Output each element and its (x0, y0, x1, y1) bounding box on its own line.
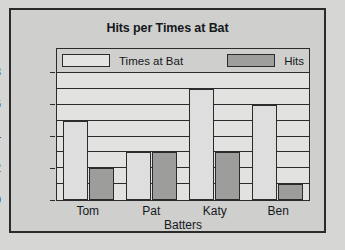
legend-swatch-times-at-bat (62, 54, 110, 67)
y-tick-mark (50, 200, 55, 201)
legend-entry-hits: Hits (227, 54, 304, 67)
chart-title: Hits per Times at Bat (11, 21, 324, 35)
y-tick-mark (50, 104, 55, 105)
y-tick-mark (50, 72, 55, 73)
plot-area: Times at Bat Hits (56, 48, 310, 201)
y-tick-label: 0 (0, 193, 1, 207)
chart-legend: Times at Bat Hits (57, 49, 309, 73)
bar-pat-times-at-bat (126, 152, 151, 200)
bar-groups (57, 73, 309, 200)
x-tick-label-katy: Katy (180, 204, 250, 218)
chart-figure: Hits per Times at Bat Times at Bat Hits … (9, 8, 326, 233)
legend-label-times-at-bat: Times at Bat (119, 55, 183, 67)
y-tick-mark (50, 168, 55, 169)
legend-entry-times-at-bat: Times at Bat (62, 54, 183, 67)
legend-label-hits: Hits (284, 55, 304, 67)
y-tick-mark (50, 136, 55, 137)
y-tick-label: 6 (0, 97, 1, 111)
bar-katy-times-at-bat (189, 89, 214, 200)
y-tick-label: 4 (0, 129, 1, 143)
bar-pat-hits (152, 152, 177, 200)
bar-katy-hits (215, 152, 240, 200)
bar-ben-times-at-bat (252, 105, 277, 200)
bar-group (120, 73, 183, 200)
bar-group (183, 73, 246, 200)
bar-group (246, 73, 309, 200)
legend-swatch-hits (227, 54, 275, 67)
bar-group (57, 73, 120, 200)
bar-tom-times-at-bat (63, 121, 88, 200)
y-tick-label: 2 (0, 161, 1, 175)
x-tick-label-tom: Tom (53, 204, 123, 218)
bar-tom-hits (89, 168, 114, 200)
plot-canvas (57, 73, 309, 200)
x-tick-label-pat: Pat (116, 204, 186, 218)
bar-ben-hits (278, 184, 303, 200)
x-axis-label: Batters (56, 218, 310, 232)
x-tick-label-ben: Ben (243, 204, 313, 218)
y-tick-label: 8 (0, 65, 1, 79)
